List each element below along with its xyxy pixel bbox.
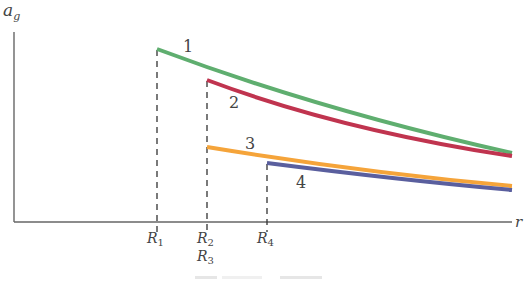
curve-label-1: 1 <box>183 37 193 56</box>
tick-label-r4: R4 <box>256 230 274 248</box>
faded-caption <box>280 276 322 279</box>
curve-label-3: 3 <box>245 134 255 153</box>
faded-caption <box>222 276 262 279</box>
curves: 1234 <box>157 37 512 192</box>
y-axis-label: ag <box>3 0 20 23</box>
curve-1 <box>157 49 512 153</box>
x-axis-label: r <box>515 213 523 231</box>
tick-label-r1: R1 <box>146 230 164 248</box>
tick-labels: R1 R2 R3 R4 <box>146 230 274 266</box>
tick-label-r3: R3 <box>196 248 214 266</box>
axes: ag r <box>3 0 523 231</box>
curve-label-2: 2 <box>229 93 239 112</box>
tick-label-r2: R2 <box>196 230 214 248</box>
faded-caption <box>195 276 217 279</box>
curve-label-4: 4 <box>296 173 306 192</box>
orbit-acceleration-diagram: ag r 1234 R1 R2 R3 R4 <box>0 0 526 282</box>
